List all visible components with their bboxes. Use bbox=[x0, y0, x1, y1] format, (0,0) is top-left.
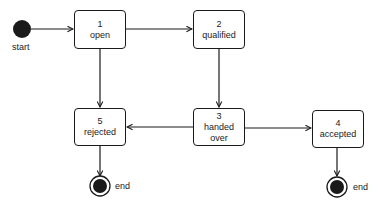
state-name-line1: handed bbox=[204, 122, 234, 133]
state-name: qualified bbox=[202, 30, 236, 41]
end-node-rejected[interactable] bbox=[90, 176, 110, 196]
diagram-canvas bbox=[0, 0, 380, 210]
state-name-line2: over bbox=[210, 133, 228, 144]
end-node-accepted[interactable] bbox=[327, 177, 347, 197]
state-number: 2 bbox=[216, 19, 221, 30]
state-name: open bbox=[90, 30, 110, 41]
state-number: 5 bbox=[97, 116, 102, 127]
state-qualified[interactable]: 2 qualified bbox=[193, 10, 245, 49]
state-name: rejected bbox=[84, 127, 116, 138]
state-number: 3 bbox=[216, 111, 221, 122]
state-open[interactable]: 1 open bbox=[74, 10, 126, 49]
state-number: 4 bbox=[335, 118, 340, 129]
end-label-rejected: end bbox=[115, 181, 130, 191]
end-label-accepted: end bbox=[353, 182, 368, 192]
state-number: 1 bbox=[97, 19, 102, 30]
state-rejected[interactable]: 5 rejected bbox=[74, 108, 126, 146]
state-name: accepted bbox=[320, 129, 357, 140]
state-handed-over[interactable]: 3 handed over bbox=[193, 108, 245, 146]
start-label: start bbox=[12, 42, 30, 52]
start-node[interactable] bbox=[13, 20, 31, 38]
state-accepted[interactable]: 4 accepted bbox=[312, 110, 364, 148]
